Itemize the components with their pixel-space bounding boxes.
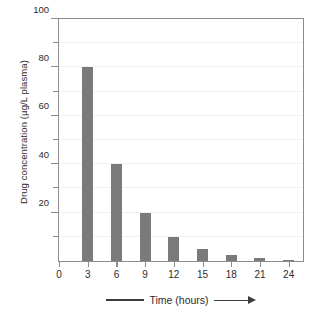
x-axis-tick-label: 9 bbox=[142, 270, 148, 280]
x-axis-tick-label: 0 bbox=[56, 270, 62, 280]
bar-series bbox=[59, 19, 303, 261]
chart-figure: Drug concentration (µg/L plasma) 2040608… bbox=[0, 0, 320, 321]
bar bbox=[140, 213, 151, 261]
arrow-right-icon bbox=[214, 296, 256, 304]
bar bbox=[254, 258, 265, 261]
plot-area: 20406080100 03691215182124 bbox=[58, 18, 304, 262]
y-axis-tick bbox=[51, 18, 59, 19]
x-axis-tick-label: 24 bbox=[283, 270, 294, 280]
bar bbox=[197, 249, 208, 261]
bar bbox=[82, 67, 93, 261]
y-axis-title: Drug concentration (µg/L plasma) bbox=[16, 0, 32, 272]
y-axis-tick bbox=[51, 212, 59, 213]
x-axis-title: Time (hours) bbox=[149, 294, 208, 306]
bar bbox=[283, 260, 294, 262]
y-axis-tick bbox=[51, 163, 59, 164]
y-axis-tick bbox=[51, 115, 59, 116]
y-axis-tick-label: 100 bbox=[33, 5, 49, 15]
y-axis-tick bbox=[51, 66, 59, 67]
x-axis-tick-label: 18 bbox=[226, 270, 237, 280]
y-axis-tick-label: 80 bbox=[38, 53, 49, 63]
x-axis-tick bbox=[260, 261, 261, 267]
x-axis-left-rule bbox=[106, 299, 144, 300]
x-axis-title-row: Time (hours) bbox=[58, 292, 304, 308]
x-axis-tick-label: 3 bbox=[85, 270, 91, 280]
x-axis-tick bbox=[116, 261, 117, 267]
x-axis-tick bbox=[88, 261, 89, 267]
y-axis-tick-label: 20 bbox=[38, 198, 49, 208]
bar bbox=[226, 255, 237, 261]
x-axis-tick-label: 21 bbox=[254, 270, 265, 280]
x-axis-tick-label: 15 bbox=[197, 270, 208, 280]
y-axis-tick-label: 60 bbox=[38, 102, 49, 112]
x-axis-tick-label: 6 bbox=[114, 270, 120, 280]
bar bbox=[111, 164, 122, 261]
y-axis-tick-label: 40 bbox=[38, 150, 49, 160]
x-axis-tick bbox=[203, 261, 204, 267]
x-axis-tick bbox=[174, 261, 175, 267]
bar bbox=[168, 237, 179, 261]
x-axis-tick bbox=[59, 261, 60, 267]
x-axis-tick bbox=[289, 261, 290, 267]
x-axis-tick-label: 12 bbox=[168, 270, 179, 280]
x-axis-tick bbox=[145, 261, 146, 267]
x-axis-tick bbox=[231, 261, 232, 267]
